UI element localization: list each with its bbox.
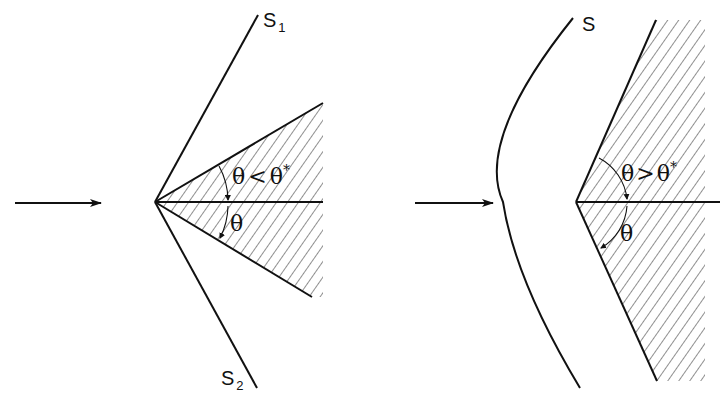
right-condition-label: θ>θ* — [621, 160, 677, 185]
left-condition-label: θ<θ* — [232, 163, 290, 188]
diagram-svg — [0, 0, 728, 406]
right-wedge-hatch — [576, 20, 705, 381]
left-wedge-hatch — [155, 103, 323, 297]
right-half-angle-label: θ — [620, 223, 633, 245]
shock-s1-label: S1 — [263, 10, 286, 34]
bow-shock-s-curve — [497, 18, 580, 388]
shock-s2-label: S2 — [221, 368, 244, 392]
left-half-angle-label: θ — [230, 213, 243, 235]
bow-shock-s-label: S — [582, 14, 595, 34]
right-panel — [415, 18, 720, 388]
left-panel — [15, 15, 323, 388]
diagram-canvas: S1 S2 θ<θ* θ S θ>θ* θ — [0, 0, 728, 406]
